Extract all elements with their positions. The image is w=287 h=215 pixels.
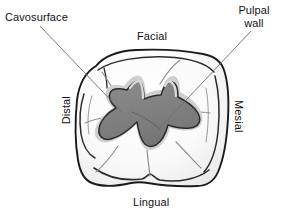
label-pulpal-wall-line2: wall [244, 17, 263, 29]
label-mesial: Mesial [233, 96, 246, 136]
tooth-diagram-figure: Cavosurface Pulpal wall Facial Lingual D… [0, 0, 287, 215]
label-distal: Distal [60, 90, 73, 130]
label-cavosurface: Cavosurface [5, 11, 68, 24]
label-pulpal-wall-line1: Pulpal [238, 4, 269, 16]
label-facial: Facial [137, 30, 167, 43]
label-pulpal-wall: Pulpal wall [225, 4, 283, 29]
label-lingual: Lingual [133, 196, 169, 209]
